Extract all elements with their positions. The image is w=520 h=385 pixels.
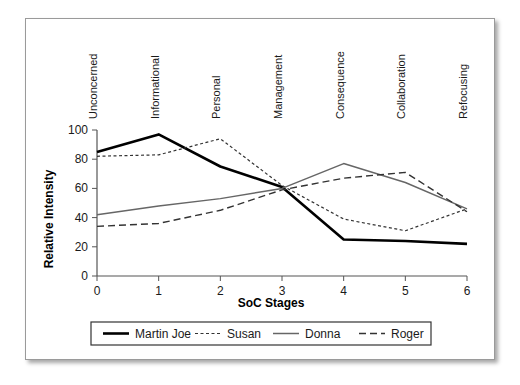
y-axis-title: Relative Intensity <box>42 169 56 268</box>
y-tick-label: 60 <box>75 181 89 195</box>
stage-label: Informational <box>149 55 161 119</box>
x-tick-label: 1 <box>155 284 162 298</box>
chart-legend: Martin JoeSusanDonnaRoger <box>91 322 431 345</box>
legend-label-martin-joe: Martin Joe <box>135 327 191 341</box>
stage-label: Refocusing <box>457 64 469 119</box>
series-line-roger <box>97 172 467 226</box>
data-series-group <box>97 134 467 244</box>
x-axis-title: SoC Stages <box>238 296 305 310</box>
x-tick-label: 5 <box>402 284 409 298</box>
x-tick-label: 0 <box>94 284 101 298</box>
axes-lines-group <box>97 130 467 276</box>
y-tick-label: 40 <box>75 211 89 225</box>
stage-label: Management <box>272 55 284 119</box>
stage-label: Unconcerned <box>87 54 99 119</box>
y-axis-ticks-group: 020406080100 <box>68 123 97 283</box>
legend-label-susan: Susan <box>227 327 261 341</box>
legend-label-donna: Donna <box>305 327 341 341</box>
x-axis-ticks-group: 0123456 <box>94 276 471 298</box>
stage-label: Collaboration <box>395 54 407 119</box>
stage-label: Consequence <box>334 51 346 119</box>
y-tick-label: 0 <box>81 269 88 283</box>
x-tick-label: 4 <box>340 284 347 298</box>
legend-label-roger: Roger <box>391 327 424 341</box>
x-tick-label: 6 <box>464 284 471 298</box>
y-tick-label: 100 <box>68 123 88 137</box>
y-tick-label: 20 <box>75 240 89 254</box>
y-tick-label: 80 <box>75 152 89 166</box>
figure-frame: UnconcernedInformationalPersonalManageme… <box>25 18 495 360</box>
soc-stages-line-chart: UnconcernedInformationalPersonalManageme… <box>26 19 496 361</box>
stage-label: Personal <box>210 76 222 119</box>
series-line-donna <box>97 164 467 215</box>
x-tick-label: 2 <box>217 284 224 298</box>
stage-labels-group: UnconcernedInformationalPersonalManageme… <box>87 51 469 119</box>
